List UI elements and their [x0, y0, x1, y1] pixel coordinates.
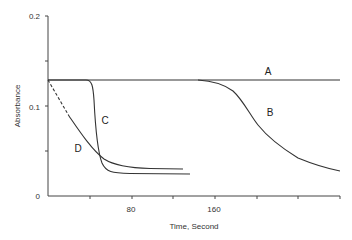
x-tick-label-160: 160 [207, 205, 221, 214]
x-tick-label-80: 80 [127, 205, 136, 214]
label-c: C [101, 115, 108, 126]
y-tick-label-0: 0 [36, 192, 41, 201]
y-tick-label-0.2: 0.2 [29, 12, 41, 21]
y-tick-label-0.1: 0.1 [29, 103, 41, 112]
y-axis-title: Absorbance [13, 84, 22, 127]
absorbance-chart: 0.2 0.1 0 80 160 Time, Second Absorbance… [0, 0, 352, 240]
curve-d-dashed [48, 80, 69, 116]
curve-d [69, 116, 183, 169]
label-b: B [267, 107, 274, 118]
y-axis [45, 16, 48, 196]
curve-c [48, 80, 190, 174]
x-axis [48, 196, 340, 199]
x-axis-title: Time, Second [169, 222, 218, 231]
curve-b [198, 80, 340, 171]
label-a: A [265, 66, 272, 77]
label-d: D [74, 143, 81, 154]
